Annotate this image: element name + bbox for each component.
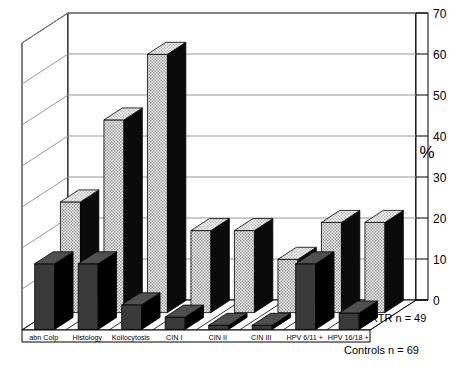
- bar-front-face: [234, 231, 254, 313]
- bar-front-face: [147, 54, 167, 312]
- bar-rtr-2: [147, 42, 185, 312]
- legend-label-rtr: RTR n = 49: [370, 312, 426, 324]
- category-label-6: HPV 6/11 +: [287, 333, 323, 342]
- bar-front-face: [252, 325, 272, 329]
- bar-controls-6: [296, 252, 334, 330]
- bar-front-face: [165, 317, 185, 329]
- bar-controls-0: [35, 252, 73, 330]
- category-label-1: Histology: [72, 333, 102, 342]
- bar-side-face: [385, 210, 403, 312]
- ytick-label-30: 30: [433, 171, 447, 185]
- bar-controls-1: [78, 252, 116, 330]
- bar-side-face: [167, 42, 185, 312]
- bar-front-face: [339, 313, 359, 329]
- ytick-label-60: 60: [433, 48, 447, 62]
- bar-front-face: [365, 222, 385, 312]
- bar-side-face: [98, 252, 116, 330]
- bar-side-face: [124, 108, 142, 313]
- bar-side-face: [211, 219, 229, 313]
- bar-rtr-3: [191, 219, 229, 313]
- ytick-label-0: 0: [433, 294, 440, 308]
- category-label-0: abn Colp: [29, 333, 58, 342]
- ytick-label-70: 70: [433, 7, 447, 21]
- bar-front-face: [35, 264, 55, 330]
- bar-side-face: [316, 252, 334, 330]
- chart-container: abn ColpHistologyKoilocytosisCIN ICIN II…: [0, 0, 453, 369]
- bar-front-face: [296, 264, 316, 330]
- category-label-7: HPV 16/18 +: [328, 333, 369, 342]
- bar-side-face: [341, 210, 359, 312]
- y-axis-title: %: [419, 143, 434, 162]
- bar-front-face: [278, 259, 298, 312]
- category-label-2: Koilocytosis: [112, 333, 150, 342]
- category-label-4: CIN II: [209, 333, 227, 342]
- ytick-label-50: 50: [433, 89, 447, 103]
- category-label-5: CIN III: [251, 333, 271, 342]
- bar-rtr-4: [234, 219, 272, 313]
- grouped-bar-chart-3d: abn ColpHistologyKoilocytosisCIN ICIN II…: [0, 0, 453, 369]
- ytick-label-40: 40: [433, 130, 447, 144]
- bar-side-face: [254, 219, 272, 313]
- bar-front-face: [191, 231, 211, 313]
- ytick-label-20: 20: [433, 212, 447, 226]
- legend-label-controls: Controls n = 69: [344, 344, 419, 356]
- bar-front-face: [78, 264, 98, 330]
- bar-rtr-7: [365, 210, 403, 312]
- ytick-label-10: 10: [433, 253, 447, 267]
- bar-front-face: [122, 305, 142, 330]
- category-label-3: CIN I: [166, 333, 182, 342]
- bar-side-face: [55, 252, 73, 330]
- bar-front-face: [209, 325, 229, 329]
